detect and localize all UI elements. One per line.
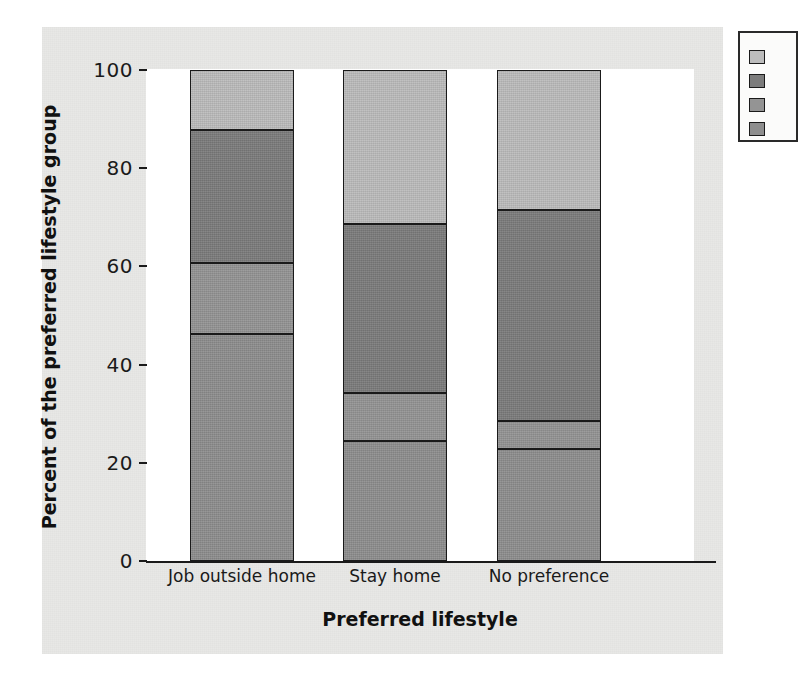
legend-item[interactable]	[749, 74, 798, 88]
bar-2	[343, 70, 447, 561]
bar-3	[497, 70, 601, 561]
bar-segment	[497, 421, 601, 449]
bar-segment	[343, 224, 447, 393]
y-axis-tick-label: 80	[78, 168, 133, 192]
y-axis-tick	[139, 462, 147, 464]
legend-swatch	[749, 98, 765, 112]
y-axis-tick	[139, 364, 147, 366]
x-axis-line	[146, 561, 716, 563]
y-axis-tick	[139, 69, 147, 71]
bar-segment	[190, 70, 294, 130]
bar-segment	[190, 130, 294, 263]
y-axis-tick-label: 20	[78, 463, 133, 487]
legend-box	[738, 31, 798, 142]
bar-segment	[190, 263, 294, 334]
legend-swatch	[749, 50, 765, 64]
legend-item[interactable]	[749, 122, 798, 136]
y-axis-tick-value: 0	[78, 549, 133, 573]
y-axis-tick-value: 20	[78, 451, 133, 475]
bar-segment	[497, 449, 601, 561]
legend-item[interactable]	[749, 50, 798, 64]
legend-swatch	[749, 74, 765, 88]
y-axis-tick-label: 60	[78, 266, 133, 290]
y-axis-tick-label: 40	[78, 365, 133, 389]
legend-swatch	[749, 122, 765, 136]
y-axis-tick-label: 0	[78, 561, 133, 585]
x-axis-tick-label: No preference	[447, 566, 651, 586]
y-axis-tick	[139, 265, 147, 267]
y-axis-tick-value: 60	[78, 254, 133, 278]
bar-segment	[497, 70, 601, 210]
y-axis-tick-value: 100	[78, 58, 133, 82]
bar-segment	[343, 70, 447, 224]
y-axis-tick-value: 80	[78, 156, 133, 180]
y-axis-tick-label: 100	[78, 70, 133, 94]
y-axis-tick-value: 40	[78, 353, 133, 377]
bar-segment	[497, 210, 601, 421]
y-axis-tick	[139, 167, 147, 169]
y-axis-title: Percent of the preferred lifestyle group	[38, 87, 60, 547]
legend-item[interactable]	[749, 98, 798, 112]
x-axis-title: Preferred lifestyle	[146, 608, 694, 630]
bar-segment	[190, 334, 294, 561]
bar-1	[190, 70, 294, 561]
bar-segment	[343, 393, 447, 441]
bar-segment	[343, 441, 447, 561]
